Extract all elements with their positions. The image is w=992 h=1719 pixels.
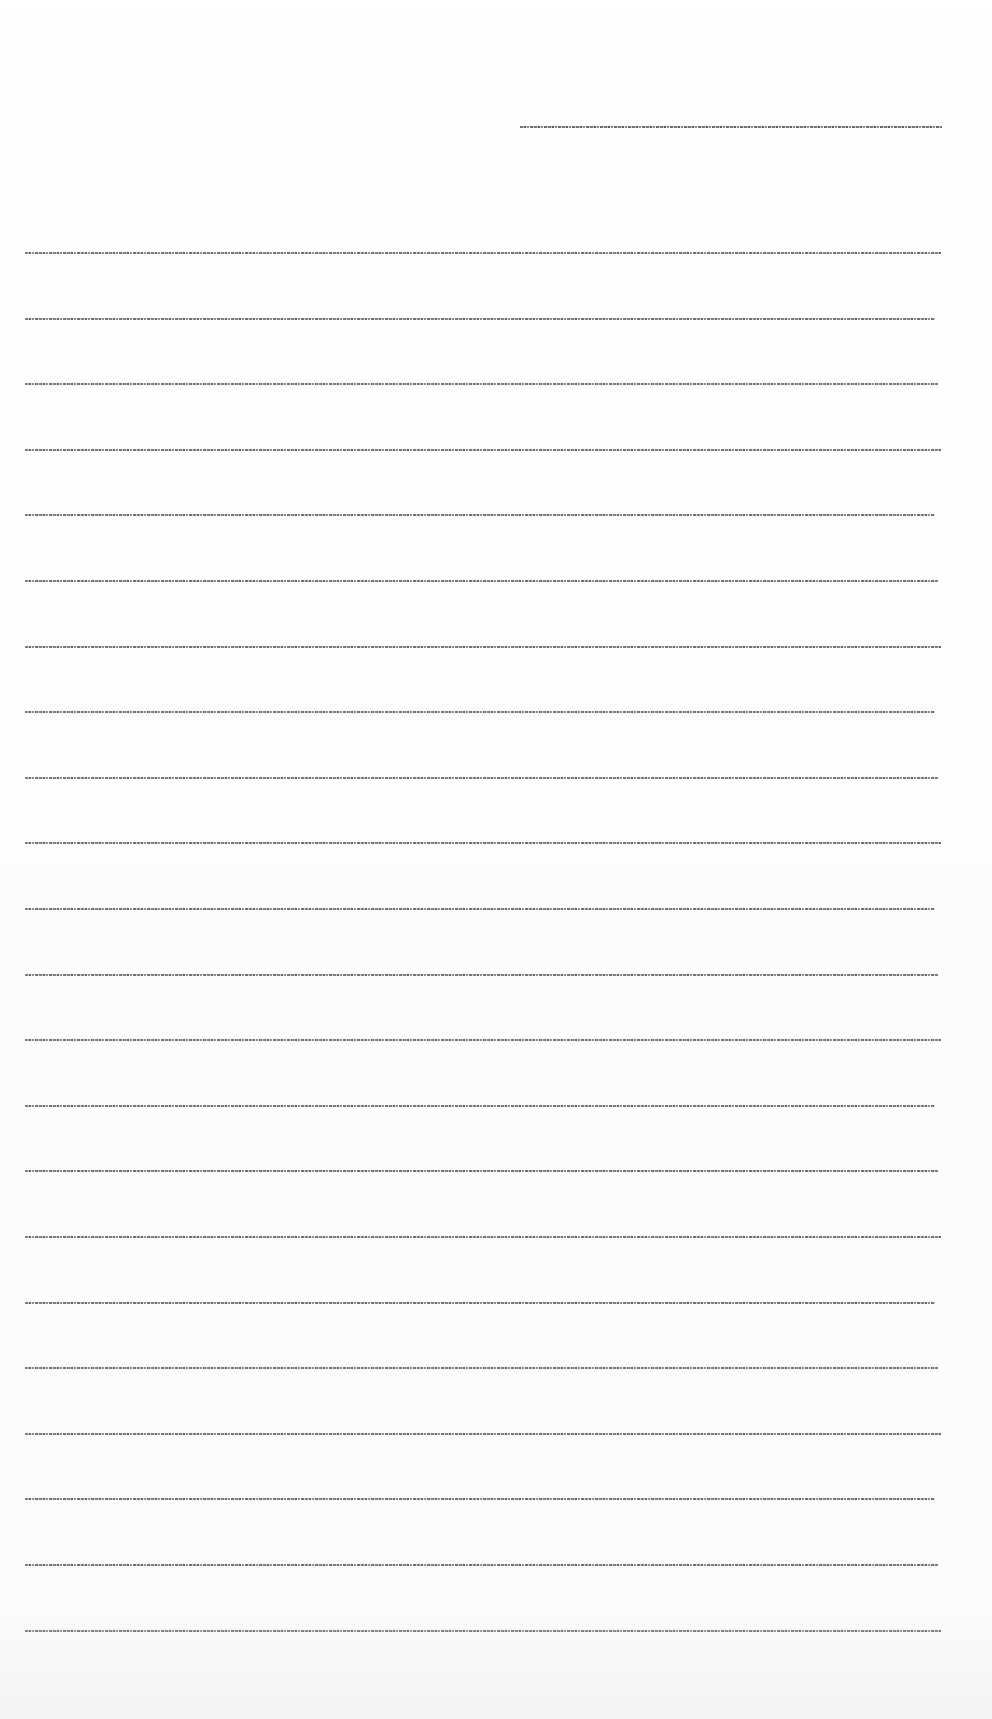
body-text-line: [illegible] — [25, 974, 938, 976]
body-text-line: [illegible] — [25, 1302, 935, 1304]
body-text: [illegible] — [25, 1431, 941, 1433]
body-text: [illegible] — [25, 1234, 941, 1236]
body-text-line: [illegible] — [25, 252, 941, 254]
body-text: [illegible] — [25, 1562, 938, 1564]
body-text: [illegible] — [25, 1365, 938, 1367]
body-text-line: [illegible] — [25, 1564, 938, 1566]
body-text-line: [illegible] — [25, 1433, 941, 1435]
body-text: [illegible] — [25, 1037, 941, 1039]
body-text-line: [illegible] — [25, 646, 941, 648]
body-text: [illegible] — [25, 1300, 935, 1302]
body-text-line: [illegible] — [25, 1105, 935, 1107]
body-text: [illegible] — [25, 316, 935, 318]
body-text: [illegible] — [25, 644, 941, 646]
body-text-line: [illegible] — [25, 711, 935, 713]
body-text: [illegible] — [25, 840, 941, 842]
body-text: [illegible] — [25, 1168, 938, 1170]
document-page: [illegible] [illegible][illegible][illeg… — [0, 0, 992, 1719]
body-text-line: [illegible] — [25, 1367, 938, 1369]
body-text-line: [illegible] — [25, 1236, 941, 1238]
body-text: [illegible] — [25, 250, 941, 252]
body-text-line: [illegible] — [25, 908, 935, 910]
body-text-line: [illegible] — [25, 1498, 935, 1500]
body-text: [illegible] — [25, 775, 938, 777]
body-text-line: [illegible] — [25, 1039, 941, 1041]
body-text-line: [illegible] — [25, 1170, 938, 1172]
body-text: [illegible] — [25, 1496, 935, 1498]
body-text: [illegible] — [25, 381, 938, 383]
body-text: [illegible] — [25, 1103, 935, 1105]
body-text: [illegible] — [25, 447, 941, 449]
body-text-line: [illegible] — [25, 383, 938, 385]
body-text: [illegible] — [25, 709, 935, 711]
body-text-line: [illegible] — [25, 580, 938, 582]
body-text-line: [illegible] — [25, 842, 941, 844]
body-text: [illegible] — [25, 578, 938, 580]
page-bottom-shadow — [0, 1609, 992, 1719]
body-text-line: [illegible] — [25, 318, 935, 320]
body-text-line: [illegible] — [25, 777, 938, 779]
body-text-line: [illegible] — [25, 449, 941, 451]
body-text: [illegible] — [25, 906, 935, 908]
body-text: [illegible] — [25, 512, 935, 514]
header-text: [illegible] — [520, 124, 942, 126]
body-text-line: [illegible] — [25, 514, 935, 516]
header-text-line: [illegible] — [520, 126, 942, 128]
body-text: [illegible] — [25, 972, 938, 974]
